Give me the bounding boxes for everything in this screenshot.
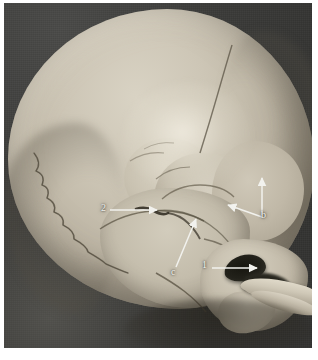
frame-left-margin [0, 0, 4, 360]
skull-photograph: 2 c b 1 [4, 3, 312, 348]
annotation-label-1[interactable]: 1 [202, 260, 207, 270]
frame-bottom-margin [0, 348, 318, 360]
annotation-label-2[interactable]: 2 [101, 203, 106, 213]
frame-right-margin [312, 0, 318, 360]
annotation-label-c[interactable]: c [171, 267, 175, 277]
annotation-label-b[interactable]: b [261, 210, 266, 220]
figure-root: 2 c b 1 [0, 0, 318, 360]
frame-top-margin [0, 0, 318, 3]
